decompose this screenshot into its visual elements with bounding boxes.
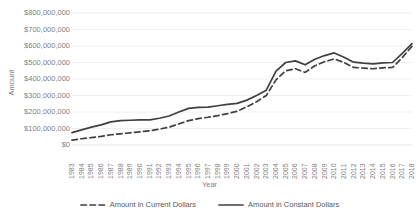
line-chart: Amount $0$100,000,000$200,000,000$300,00… — [0, 0, 419, 221]
chart-legend: Amount in Current DollarsAmount in Const… — [0, 200, 419, 209]
x-axis-tick-label: 2017 — [398, 163, 405, 179]
x-axis-tick-label: 2012 — [350, 163, 357, 179]
x-axis-tick-label: 1997 — [204, 163, 211, 179]
x-axis-tick-label: 1985 — [87, 163, 94, 179]
y-axis-tick-label: $0 — [14, 141, 70, 149]
x-axis-tick-label: 1983 — [68, 163, 75, 179]
x-axis-tick-label: 2004 — [272, 163, 279, 179]
x-axis-tick-label: 1989 — [126, 163, 133, 179]
y-axis-tick-label: $500,000,000 — [14, 59, 70, 67]
x-axis-tick-label: 2006 — [291, 163, 298, 179]
x-axis-tick-label: 2013 — [359, 163, 366, 179]
legend-swatch-icon — [218, 201, 244, 209]
x-axis-tick-label: 2007 — [301, 163, 308, 179]
x-axis-tick-label: 1993 — [165, 163, 172, 179]
x-axis-tick-label: 1988 — [117, 163, 124, 179]
x-axis-tick-label: 1990 — [136, 163, 143, 179]
x-axis-tick-label: 1992 — [155, 163, 162, 179]
x-axis-tick-label: 1996 — [194, 163, 201, 179]
gridlines — [72, 13, 412, 145]
legend-item[interactable]: Amount in Constant Dollars — [218, 200, 339, 209]
x-axis-tick-label: 2016 — [389, 163, 396, 179]
legend-label: Amount in Constant Dollars — [248, 200, 339, 209]
x-axis-tick-label: 2015 — [379, 163, 386, 179]
y-axis-tick-label: $400,000,000 — [14, 75, 70, 83]
x-axis-title: Year — [0, 180, 419, 189]
x-axis-tick-label: 1994 — [175, 163, 182, 179]
legend-swatch-icon — [80, 201, 106, 209]
x-axis-tick-label: 2002 — [253, 163, 260, 179]
x-axis-tick-label: 2003 — [262, 163, 269, 179]
x-axis-tick-label: 2014 — [369, 163, 376, 179]
y-axis-tick-label: $100,000,000 — [14, 125, 70, 133]
x-axis-tick-labels: 1983198419851986198719881989199019911992… — [72, 147, 412, 179]
y-axis-tick-label: $300,000,000 — [14, 92, 70, 100]
x-axis-tick-label: 1984 — [78, 163, 85, 179]
y-axis-tick-label: $800,000,000 — [14, 9, 70, 17]
series-lines — [72, 44, 412, 140]
x-axis-tick-label: 2001 — [243, 163, 250, 179]
x-axis-tick-label: 2010 — [330, 163, 337, 179]
series-line — [72, 44, 412, 133]
y-axis-tick-label: $200,000,000 — [14, 108, 70, 116]
plot-svg — [72, 13, 412, 145]
x-axis-tick-label: 1991 — [146, 163, 153, 179]
x-axis-tick-label: 1995 — [185, 163, 192, 179]
x-axis-tick-label: 2009 — [321, 163, 328, 179]
x-axis-tick-label: 1986 — [97, 163, 104, 179]
x-axis-tick-label: 2008 — [311, 163, 318, 179]
legend-label: Amount in Current Dollars — [110, 200, 196, 209]
x-axis-tick-label: 2000 — [233, 163, 240, 179]
legend-item[interactable]: Amount in Current Dollars — [80, 200, 196, 209]
y-axis-tick-label: $600,000,000 — [14, 42, 70, 50]
x-axis-tick-label: 1999 — [223, 163, 230, 179]
series-line — [72, 46, 412, 140]
x-axis-tick-label: 1987 — [107, 163, 114, 179]
plot-area — [72, 13, 412, 145]
y-axis-tick-label: $700,000,000 — [14, 26, 70, 34]
x-axis-tick-label: 2018 — [408, 163, 415, 179]
y-axis-tick-labels: $0$100,000,000$200,000,000$300,000,000$4… — [14, 0, 70, 160]
x-axis-tick-label: 1998 — [214, 163, 221, 179]
x-axis-tick-label: 2005 — [282, 163, 289, 179]
x-axis-tick-label: 2011 — [340, 164, 347, 179]
